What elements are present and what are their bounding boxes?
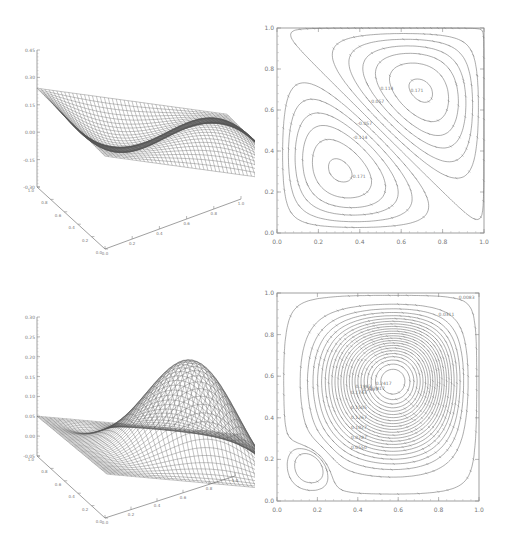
y-tick-label: 0.0 [264, 497, 274, 504]
y-tick-label: 0.4 [68, 225, 75, 230]
x-tick-label: 0.0 [102, 251, 109, 256]
contour-plot-bottom: 0.00.00.20.20.40.40.60.60.80.81.01.00.00… [255, 273, 509, 546]
z-tick-label: 0.15 [25, 375, 35, 380]
contour-level-label: 0.0787 [351, 435, 367, 440]
y-tick-label: 1.0 [28, 457, 35, 462]
x-tick-label: 0.8 [434, 506, 444, 513]
y-tick-label: 0.0 [264, 229, 274, 236]
y-tick-label: 1.0 [264, 289, 274, 296]
z-tick-label: 0.30 [25, 315, 35, 320]
z-tick-label: 0.30 [25, 75, 35, 80]
y-tick-label: 1.0 [28, 188, 35, 193]
plot-area: 0.00.00.20.20.40.40.60.60.80.81.01.0 [264, 289, 483, 513]
z-tick-label: 0.10 [25, 394, 35, 399]
z-tick-label: 0.25 [25, 335, 35, 340]
contour-lines-top: 0.00.00.20.20.40.40.60.60.80.81.01.0-0.1… [255, 0, 509, 270]
y-tick-label: 0.6 [264, 106, 274, 113]
y-tick-label: 0.0 [96, 519, 103, 524]
contour-level-label: 0.0083 [459, 295, 475, 300]
x-tick-label: 0.8 [206, 486, 213, 491]
x-tick-label: 0.0 [272, 506, 282, 513]
x-tick-label: 0.4 [353, 506, 363, 513]
x-tick-label: 0.0 [102, 520, 109, 525]
contour-level-label: 0.1267 [351, 415, 367, 420]
z-tick-label: 0.00 [25, 434, 35, 439]
x-tick-label: 0.6 [180, 495, 187, 500]
x-tick-label: 0.2 [129, 241, 136, 246]
contour-plot-top: 0.00.00.20.20.40.40.60.60.80.81.01.0-0.1… [255, 0, 509, 270]
contour-lines [283, 294, 478, 495]
surface-plot-bottom: -0.050.000.050.100.150.200.250.300.00.20… [0, 273, 255, 546]
contour-level-label: 0.0550 [351, 445, 367, 450]
x-tick-label: 1.0 [232, 478, 239, 483]
y-tick-label: 0.2 [82, 238, 89, 243]
y-tick-label: 0.6 [55, 482, 62, 487]
x-tick-label: 1.0 [238, 201, 245, 206]
y-tick-label: 0.8 [41, 469, 48, 474]
plot-frame [277, 293, 479, 501]
z-tick-label: 0.15 [25, 103, 35, 108]
y-tick-label: 0.0 [96, 250, 103, 255]
x-tick-label: 0.8 [438, 238, 448, 245]
z-tick-label: 0.05 [25, 414, 35, 419]
x-tick-label: 0.8 [211, 211, 218, 216]
y-tick-label: 0.8 [41, 200, 48, 205]
y-tick-label: 0.4 [264, 414, 274, 421]
surface-wireframe-top: -0.30-0.150.000.150.300.450.00.20.40.60.… [0, 0, 255, 270]
x-tick-label: 1.0 [479, 238, 489, 245]
x-tick-label: 1.0 [474, 506, 484, 513]
x-tick-label: 0.4 [355, 238, 365, 245]
x-tick-label: 0.2 [313, 506, 323, 513]
y-tick-label: 0.4 [68, 494, 75, 499]
x-tick-label: 0.2 [128, 512, 135, 517]
y-tick-label: 0.8 [264, 65, 274, 72]
x-tick-label: 0.0 [272, 238, 282, 245]
contour-level-label: 0.2417 [376, 381, 392, 386]
contour-level-label: -0.171 [351, 174, 366, 179]
contour-level-label: 0.0311 [439, 312, 455, 317]
surface-plot-top: -0.30-0.150.000.150.300.450.00.20.40.60.… [0, 0, 255, 270]
x-tick-label: 0.6 [396, 238, 406, 245]
contour-level-label: -0.057 [358, 121, 373, 126]
z-tick-label: 0.00 [25, 130, 35, 135]
y-tick-label: 0.6 [264, 372, 274, 379]
y-tick-label: 0.2 [264, 188, 274, 195]
z-tick-label: -0.15 [23, 158, 35, 163]
contour-level-label: 0.114 [381, 86, 394, 91]
surface-wireframe-bottom: -0.050.000.050.100.150.200.250.300.00.20… [0, 273, 255, 546]
contour-level-label: -0.114 [353, 135, 368, 140]
contour-level-label: 0.1027 [351, 425, 367, 430]
x-tick-label: 0.4 [156, 231, 163, 236]
x-tick-label: 0.6 [183, 221, 190, 226]
x-tick-label: 0.2 [314, 238, 324, 245]
contour-lines [282, 27, 485, 228]
y-tick-label: 0.8 [264, 331, 274, 338]
contour-level-label: 0.2417 [369, 386, 385, 391]
y-tick-label: 1.0 [264, 24, 274, 31]
contour-level-label: 0.171 [410, 88, 423, 93]
y-tick-label: 0.6 [55, 213, 62, 218]
y-tick-label: 0.2 [264, 455, 274, 462]
contour-level-label: 0.057 [371, 99, 384, 104]
z-tick-label: 0.20 [25, 355, 35, 360]
y-tick-label: 0.2 [82, 507, 89, 512]
surface-mesh [37, 360, 255, 492]
y-tick-label: 0.4 [264, 147, 274, 154]
contour-level-label: 0.1505 [351, 405, 367, 410]
surface-mesh [37, 88, 255, 182]
contour-lines-bottom: 0.00.00.20.20.40.40.60.60.80.81.01.00.00… [255, 273, 509, 546]
x-tick-label: 0.6 [393, 506, 403, 513]
z-tick-label: 0.45 [25, 48, 35, 53]
x-tick-label: 0.4 [154, 503, 161, 508]
